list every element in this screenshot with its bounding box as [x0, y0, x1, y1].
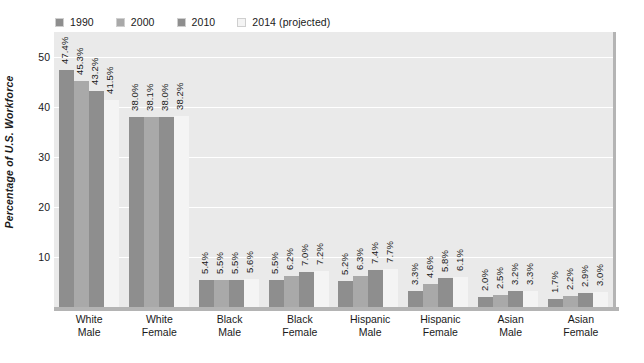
legend-swatch-1990 [55, 18, 64, 27]
bar-value-label: 38.0% [129, 84, 140, 111]
bar[interactable] [269, 280, 284, 308]
bar[interactable] [423, 284, 438, 307]
bar-slot: 47.4% [59, 32, 74, 307]
bar-value-label: 6.1% [454, 248, 465, 270]
bar[interactable] [229, 280, 244, 308]
bar-slot: 5.8% [438, 32, 453, 307]
bar-value-label: 43.2% [89, 58, 100, 85]
bar[interactable] [199, 280, 214, 307]
bar-slot: 3.2% [508, 32, 523, 307]
bar-value-label: 6.3% [354, 247, 365, 269]
bar[interactable] [493, 295, 508, 308]
bar-slot: 2.0% [478, 32, 493, 307]
bar-value-label: 5.5% [269, 251, 280, 273]
bar[interactable] [508, 291, 523, 307]
bar[interactable] [299, 272, 314, 307]
bar-slot: 7.0% [299, 32, 314, 307]
bar-value-label: 3.3% [409, 262, 420, 284]
bar-slot: 43.2% [89, 32, 104, 307]
bar[interactable] [89, 91, 104, 307]
bar[interactable] [129, 117, 144, 307]
bar-value-label: 38.1% [144, 83, 155, 110]
bar-slot: 7.4% [368, 32, 383, 307]
legend-swatch-2000 [116, 18, 125, 27]
bar-slot: 5.5% [214, 32, 229, 307]
bar[interactable] [59, 70, 74, 307]
bar-value-label: 3.2% [509, 263, 520, 285]
bar-value-label: 3.3% [524, 262, 535, 284]
bar-slot: 3.3% [523, 32, 538, 307]
bar[interactable] [144, 117, 159, 308]
x-axis-tick-label: WhiteMale [54, 313, 124, 339]
bar[interactable] [408, 291, 423, 308]
bar-slot: 45.3% [74, 32, 89, 307]
bar-value-label: 7.7% [384, 240, 395, 262]
bar-slot: 2.2% [563, 32, 578, 307]
bar[interactable] [523, 291, 538, 308]
bar-value-label: 7.2% [314, 243, 325, 265]
bar[interactable] [214, 280, 229, 308]
bar[interactable] [578, 293, 593, 308]
x-axis-tick-label: HispanicMale [335, 313, 405, 339]
bar-value-label: 5.5% [214, 251, 225, 273]
bar-group: 5.4%5.5%5.5%5.6% [194, 32, 264, 307]
legend-item-2010: 2010 [177, 16, 216, 28]
bar-slot: 38.0% [159, 32, 174, 307]
bar[interactable] [353, 276, 368, 308]
y-axis-title-text: Percentage of U.S. Workforce [3, 75, 15, 228]
bar[interactable] [174, 116, 189, 307]
bar-slot: 5.6% [244, 32, 259, 307]
bar-group: 5.5%6.2%7.0%7.2% [264, 32, 334, 307]
bar[interactable] [244, 279, 259, 307]
bar-value-label: 2.9% [579, 264, 590, 286]
y-axis-title: Percentage of U.S. Workforce [2, 0, 16, 363]
bar[interactable] [104, 100, 119, 308]
bar-value-label: 38.0% [159, 84, 170, 111]
bar-value-label: 1.7% [549, 270, 560, 292]
x-axis-tick-label: HispanicFemale [405, 313, 475, 339]
bar[interactable] [284, 276, 299, 307]
bar[interactable] [438, 278, 453, 307]
bar-value-label: 7.4% [369, 242, 380, 264]
bar-slot: 6.2% [284, 32, 299, 307]
chart-legend: 1990 2000 2010 2014 (projected) [55, 14, 352, 30]
bar[interactable] [563, 296, 578, 307]
bar-slot: 7.2% [314, 32, 329, 307]
y-axis-tick-label: 30 [22, 151, 50, 163]
legend-item-2000: 2000 [116, 16, 155, 28]
bar-slot: 1.7% [548, 32, 563, 307]
legend-label-1990: 1990 [70, 16, 94, 28]
bar-value-label: 6.2% [284, 248, 295, 270]
bar[interactable] [159, 117, 174, 307]
bar-slot: 3.0% [593, 32, 608, 307]
bar-slot: 5.5% [269, 32, 284, 307]
bar[interactable] [478, 297, 493, 307]
bar-group: 2.0%2.5%3.2%3.3% [473, 32, 543, 307]
x-axis-tick-label: BlackMale [195, 313, 265, 339]
bar[interactable] [74, 81, 89, 308]
legend-label-2014-projected: 2014 (projected) [252, 16, 330, 28]
legend-label-2010: 2010 [192, 16, 216, 28]
bar-value-label: 5.5% [229, 251, 240, 273]
bar-value-label: 5.8% [439, 250, 450, 272]
bar-slot: 2.9% [578, 32, 593, 307]
bar-slot: 5.4% [199, 32, 214, 307]
bar[interactable] [383, 269, 398, 308]
bar-slot: 5.5% [229, 32, 244, 307]
bar[interactable] [314, 271, 329, 307]
bar-slot: 6.1% [453, 32, 468, 307]
bar[interactable] [548, 299, 563, 308]
x-axis-tick-label: AsianFemale [546, 313, 616, 339]
bar-slot: 4.6% [423, 32, 438, 307]
bar[interactable] [368, 270, 383, 307]
legend-item-1990: 1990 [55, 16, 94, 28]
bar[interactable] [453, 277, 468, 308]
bar-slot: 38.0% [129, 32, 144, 307]
bar-value-label: 5.2% [339, 253, 350, 275]
bar-value-label: 7.0% [299, 244, 310, 266]
bar-value-label: 2.0% [479, 269, 490, 291]
bar[interactable] [338, 281, 353, 307]
bar-value-label: 38.2% [174, 83, 185, 110]
bar[interactable] [593, 292, 608, 307]
legend-swatch-2014-projected [237, 18, 246, 27]
